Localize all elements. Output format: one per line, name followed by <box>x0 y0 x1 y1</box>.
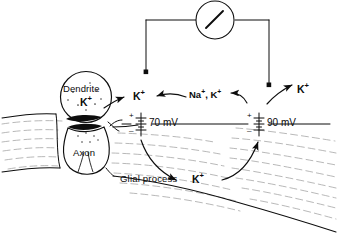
left-battery-symbol <box>136 113 146 136</box>
glial-process-label: Glial process <box>120 174 178 184</box>
ion-label-k-glial: K+ <box>192 172 204 184</box>
right-polarity-plus: + <box>247 112 252 120</box>
right-potential-value: 90 <box>267 117 278 128</box>
k-efflux-symbol: K <box>297 83 305 95</box>
dendrite-ion-symbol: K <box>80 96 88 108</box>
left-polarity-plus: + <box>129 112 134 120</box>
right-electrode-tip <box>267 83 272 88</box>
k-extracellular-charge: + <box>217 88 221 95</box>
k-synapse-symbol: K <box>133 90 141 102</box>
arrow-k-efflux-right <box>267 85 292 104</box>
right-polarity-minus: – <box>247 127 251 135</box>
k-efflux-charge: + <box>305 81 309 90</box>
left-membrane-potential: 70 mV <box>149 118 178 128</box>
left-potential-value: 70 <box>149 117 160 128</box>
na-symbol: Na <box>189 89 201 100</box>
figure-canvas: Dendrite K+ Axon Glial process K+ Na+, K… <box>0 0 338 241</box>
k-synapse-charge: + <box>141 88 145 97</box>
k-glial-symbol: K <box>192 173 200 185</box>
k-glial-charge: + <box>200 171 204 180</box>
axon-label: Axon <box>73 148 95 158</box>
galvanometer <box>196 1 234 39</box>
arrow-right-membrane-to-nak <box>231 93 247 103</box>
right-membrane-potential: 90 mV <box>267 118 296 128</box>
arrow-nak-to-synapse <box>157 94 186 97</box>
right-potential-unit: mV <box>281 117 296 128</box>
right-battery-symbol <box>254 113 264 136</box>
left-potential-unit: mV <box>163 117 178 128</box>
left-polarity-minus: – <box>129 127 133 135</box>
left-electrode-tip <box>144 70 149 75</box>
tissue-striations <box>2 121 336 219</box>
dendrite-ion-label: K+ <box>80 95 92 107</box>
dendrite-ion-charge: + <box>88 94 92 103</box>
ion-label-k-synapse: K+ <box>133 89 145 101</box>
ion-label-k-efflux: K+ <box>297 82 309 94</box>
dendrite-label: Dendrite <box>63 84 100 94</box>
ion-label-na-k: Na+, K+ <box>189 89 221 100</box>
